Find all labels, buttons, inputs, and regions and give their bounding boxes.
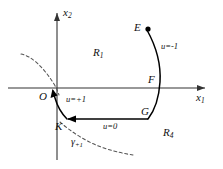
curve-label-gamma-plus-1: γ+1 — [71, 137, 83, 149]
gamma-plus-1-upper-branch — [21, 54, 59, 95]
point-label-F: F — [148, 74, 155, 85]
point-label-G: G — [141, 106, 149, 117]
point-label-E: E — [134, 22, 141, 33]
control-label-u-plus-1: u=+1 — [66, 95, 86, 104]
phase-plane-figure: x1 x2 O E F G K R1 R4 u=-1 u=+1 u=0 γ+1 — [0, 0, 223, 169]
point-label-K: K — [55, 121, 62, 132]
figure-canvas — [0, 0, 223, 169]
region-label-R4: R4 — [163, 127, 173, 140]
control-label-u-zero: u=0 — [103, 122, 117, 131]
x1-axis-label: x1 — [196, 92, 205, 105]
point-label-O: O — [39, 91, 47, 102]
region-label-R1: R1 — [93, 47, 103, 60]
x2-axis-label: x2 — [63, 7, 72, 20]
endpoint-dot-E — [145, 26, 150, 31]
control-label-u-minus-1: u=-1 — [161, 42, 178, 51]
x1-axis — [8, 85, 205, 91]
